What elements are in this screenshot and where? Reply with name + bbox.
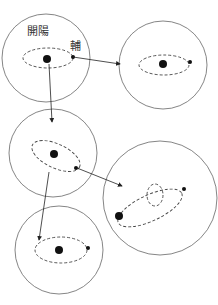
arrow-panel3-to-panel4 — [77, 168, 122, 186]
panel-5-primary-star — [55, 246, 63, 254]
panel-2 — [119, 21, 207, 109]
arrow-panel3-to-panel5 — [39, 172, 49, 240]
label-kaiyang: 開陽 — [27, 26, 49, 37]
panel-4-orbit-b — [147, 184, 163, 206]
panel-4-primary-star — [115, 212, 123, 220]
panel-3-primary-star — [50, 150, 58, 158]
panel-5-companion-star — [86, 246, 90, 250]
arrow-panel1-to-panel2 — [73, 57, 120, 64]
panel-2-companion-star — [188, 60, 192, 64]
panel-1-primary-star — [43, 55, 51, 63]
panel-4-companion-star — [182, 187, 186, 191]
panel-3 — [9, 109, 97, 197]
panel-4-circle — [103, 141, 217, 255]
panel-5 — [15, 206, 103, 294]
panel-2-primary-star — [159, 60, 167, 68]
label-fu: 輔 — [70, 41, 81, 52]
arrow-panel1-to-panel3 — [49, 64, 52, 122]
panel-4 — [103, 141, 217, 255]
binary-star-diagram — [0, 0, 218, 305]
panel-4-orbit-a — [113, 181, 187, 234]
